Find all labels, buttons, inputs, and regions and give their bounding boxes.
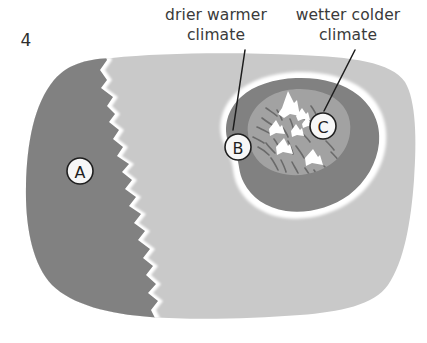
- marker-b[interactable]: B: [225, 134, 251, 160]
- marker-a[interactable]: A: [67, 158, 93, 184]
- callout-drier-warmer-line1: drier warmer: [165, 6, 267, 24]
- marker-a-label: A: [75, 163, 86, 182]
- figure-container: drier warmer climate wetter colder clima…: [0, 0, 427, 343]
- callout-wetter-colder-line1: wetter colder: [296, 6, 401, 24]
- climate-change-map-diagram: drier warmer climate wetter colder clima…: [0, 0, 427, 343]
- marker-c[interactable]: C: [310, 113, 336, 139]
- callout-labels: drier warmer climate wetter colder clima…: [165, 6, 401, 44]
- marker-c-label: C: [317, 118, 328, 137]
- callout-drier-warmer-line2: climate: [187, 26, 245, 44]
- callout-wetter-colder-line2: climate: [319, 26, 377, 44]
- figure-number: 4: [21, 30, 32, 50]
- marker-b-label: B: [233, 139, 244, 158]
